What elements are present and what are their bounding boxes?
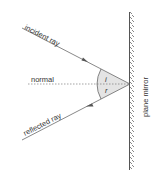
mirror-label: plane mirror	[141, 76, 150, 117]
incident-arrow-icon	[82, 58, 89, 63]
reflection-diagram: incident ray normal reflected ray plane …	[0, 0, 159, 175]
reflected-arrow-icon	[86, 104, 94, 107]
reflected-ray	[22, 84, 130, 140]
reflected-label: reflected ray	[22, 111, 63, 138]
incident-label: incident ray	[23, 23, 61, 49]
normal-label: normal	[31, 75, 54, 84]
